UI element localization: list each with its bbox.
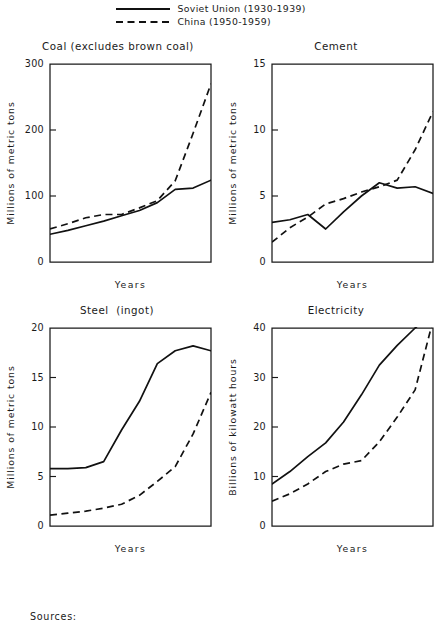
chart-title-coal: Coal (excludes brown coal) (0, 40, 222, 52)
dashed-line-icon (115, 17, 171, 27)
series-line-soviet-union (272, 318, 433, 484)
chart-svg-steel: 05101520Millions of metric tonsYears (0, 318, 222, 566)
chart-title-cement: Cement (222, 40, 444, 52)
legend-entry-china: China (1950-1959) (115, 15, 330, 28)
series-line-soviet-union (272, 183, 433, 229)
y-tick-label: 40 (253, 322, 266, 333)
legend-label-china: China (1950-1959) (178, 16, 271, 27)
chart-panel-electricity: Electricity 010203040Billions of kilowat… (222, 300, 444, 568)
chart-panel-cement: Cement 051015Millions of metric tonsYear… (222, 36, 444, 304)
y-tick-label: 0 (260, 520, 266, 531)
series-line-china (50, 84, 211, 229)
y-axis-title: Millions of metric tons (5, 365, 16, 488)
y-tick-label: 200 (25, 124, 44, 135)
chart-svg-cement: 051015Millions of metric tonsYears (222, 54, 444, 302)
y-tick-label: 300 (25, 58, 44, 69)
x-axis-title: Years (114, 279, 147, 290)
y-tick-label: 10 (253, 124, 266, 135)
chart-title-electricity: Electricity (222, 304, 444, 316)
series-line-china (272, 321, 433, 502)
chart-legend: Soviet Union (1930-1939) China (1950-195… (0, 2, 444, 28)
chart-panel-coal: Coal (excludes brown coal) 0100200300Mil… (0, 36, 222, 304)
y-axis-title: Millions of metric tons (227, 101, 238, 224)
y-tick-label: 0 (38, 520, 44, 531)
y-tick-label: 15 (253, 58, 266, 69)
series-line-china (50, 392, 211, 515)
y-tick-label: 100 (25, 190, 44, 201)
x-axis-title: Years (114, 543, 147, 554)
y-tick-label: 20 (31, 322, 44, 333)
chart-svg-electricity: 010203040Billions of kilowatt hoursYears (222, 318, 444, 566)
series-line-soviet-union (50, 346, 211, 469)
chart-title-steel: Steel (ingot) (0, 304, 222, 316)
y-tick-label: 0 (260, 256, 266, 267)
y-tick-label: 5 (260, 190, 266, 201)
x-axis-title: Years (336, 543, 369, 554)
x-axis-title: Years (336, 279, 369, 290)
y-axis-title: Millions of metric tons (5, 101, 16, 224)
legend-entry-soviet-union: Soviet Union (1930-1939) (115, 2, 330, 15)
y-tick-label: 15 (31, 372, 44, 383)
y-tick-label: 30 (253, 372, 266, 383)
solid-line-icon (115, 4, 171, 14)
y-tick-label: 0 (38, 256, 44, 267)
chart-svg-coal: 0100200300Millions of metric tonsYears (0, 54, 222, 302)
y-tick-label: 5 (38, 471, 44, 482)
y-tick-label: 10 (31, 421, 44, 432)
sources-label: Sources: (30, 611, 77, 622)
legend-label-soviet-union: Soviet Union (1930-1939) (178, 3, 306, 14)
y-tick-label: 20 (253, 421, 266, 432)
y-axis-title: Billions of kilowatt hours (227, 358, 238, 495)
series-line-soviet-union (50, 180, 211, 234)
series-line-china (272, 112, 433, 243)
y-tick-label: 10 (253, 471, 266, 482)
chart-panel-steel: Steel (ingot) 05101520Millions of metric… (0, 300, 222, 568)
